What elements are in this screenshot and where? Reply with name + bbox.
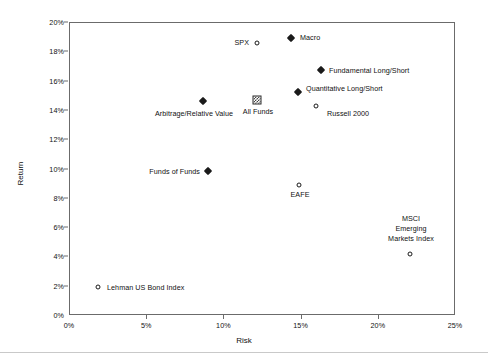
- y-tick-mark-10: [64, 168, 68, 169]
- scatter-chart-figure: 20% 18% 16% 14% 12% 10% 8% 6% 4% 2% 0% 0…: [0, 0, 488, 362]
- x-tick-10: 10%: [216, 321, 231, 330]
- data-label-all-funds: All Funds: [243, 108, 273, 117]
- x-tick-mark-20: [378, 315, 379, 319]
- data-label-msci-line3: Markets Index: [388, 235, 434, 244]
- y-tick-mark-18: [64, 51, 68, 52]
- data-point-msci-emerging-markets-index[interactable]: [408, 251, 413, 256]
- data-point-all-funds[interactable]: [253, 95, 262, 104]
- data-label-lehman-us-bond-index: Lehman US Bond Index: [107, 284, 184, 293]
- data-label-fundamental-long-short: Fundamental Long/Short: [329, 67, 409, 76]
- y-tick-10: 10%: [49, 164, 64, 173]
- x-tick-mark-15: [301, 315, 302, 319]
- y-tick-12: 12%: [49, 135, 64, 144]
- data-point-spx[interactable]: [255, 40, 260, 45]
- data-label-macro: Macro: [300, 34, 320, 43]
- y-tick-mark-12: [64, 139, 68, 140]
- y-tick-20: 20%: [49, 18, 64, 27]
- y-tick-mark-6: [64, 227, 68, 228]
- data-label-eafe: EAFE: [291, 191, 310, 200]
- data-point-lehman-us-bond-index[interactable]: [96, 285, 101, 290]
- data-label-arbitrage-relative-value: Arbitrage/Relative Value: [155, 110, 233, 119]
- x-tick-0: 0%: [64, 321, 75, 330]
- y-tick-mark-20: [64, 22, 68, 23]
- y-axis-tick-labels: 20% 18% 16% 14% 12% 10% 8% 6% 4% 2% 0%: [38, 0, 64, 362]
- y-tick-mark-8: [64, 197, 68, 198]
- y-axis-title: Return: [16, 144, 25, 204]
- data-label-spx: SPX: [234, 39, 249, 48]
- data-label-russell-2000: Russell 2000: [327, 110, 369, 119]
- y-tick-16: 16%: [49, 76, 64, 85]
- data-label-quantitative-long-short: Quantitative Long/Short: [306, 85, 383, 94]
- y-tick-8: 8%: [53, 193, 64, 202]
- x-tick-25: 25%: [448, 321, 463, 330]
- data-point-russell-2000[interactable]: [314, 103, 319, 108]
- page-bottom-rule: [0, 352, 488, 353]
- x-tick-mark-5: [146, 315, 147, 319]
- y-tick-mark-2: [64, 285, 68, 286]
- y-tick-6: 6%: [53, 223, 64, 232]
- data-label-msci-line1: MSCI: [402, 215, 420, 224]
- data-label-funds-of-funds: Funds of Funds: [149, 168, 200, 177]
- data-label-msci-line2: Emerging: [395, 225, 426, 234]
- x-tick-20: 20%: [370, 321, 385, 330]
- x-axis-tick-labels: 0% 5% 10% 15% 20% 25%: [0, 321, 488, 335]
- y-tick-mark-16: [64, 80, 68, 81]
- y-tick-4: 4%: [53, 252, 64, 261]
- x-tick-5: 5%: [141, 321, 152, 330]
- y-tick-2: 2%: [53, 281, 64, 290]
- x-tick-mark-10: [223, 315, 224, 319]
- y-tick-mark-4: [64, 256, 68, 257]
- y-tick-18: 18%: [49, 47, 64, 56]
- x-tick-15: 15%: [293, 321, 308, 330]
- y-tick-mark-14: [64, 109, 68, 110]
- data-point-eafe[interactable]: [297, 182, 302, 187]
- x-axis-title: Risk: [0, 336, 488, 345]
- y-tick-14: 14%: [49, 105, 64, 114]
- y-tick-0: 0%: [53, 311, 64, 320]
